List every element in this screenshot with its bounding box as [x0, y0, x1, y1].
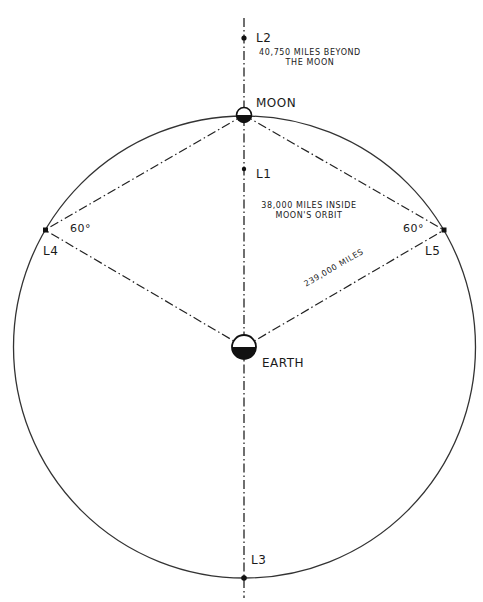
moon-l4-line — [45, 115, 244, 230]
l1-point-icon — [242, 167, 246, 171]
l1-note-line2: MOON'S ORBIT — [254, 211, 364, 221]
moon-icon — [237, 108, 252, 123]
earth-label: EARTH — [262, 356, 304, 370]
l5-angle-label: 60° — [403, 222, 424, 235]
l5-point-icon — [442, 228, 447, 233]
l2-note-line1: 40,750 MILES BEYOND — [250, 48, 370, 58]
moon-label: MOON — [256, 96, 296, 110]
l1-note-line1: 38,000 MILES INSIDE — [254, 201, 364, 211]
l2-note: 40,750 MILES BEYOND THE MOON — [250, 48, 370, 68]
l4-point-icon — [43, 228, 48, 233]
l2-label: L2 — [256, 31, 271, 45]
l4-angle-label: 60° — [70, 222, 91, 235]
l3-label: L3 — [251, 553, 266, 567]
l2-point-icon — [241, 35, 246, 40]
l1-label: L1 — [256, 167, 271, 181]
l5-label: L5 — [425, 244, 440, 258]
earth-icon — [232, 335, 256, 359]
earth-l4-line — [45, 230, 244, 347]
l3-point-icon — [241, 575, 247, 581]
earth-l5-line — [244, 230, 444, 347]
l4-label: L4 — [43, 244, 58, 258]
l1-note: 38,000 MILES INSIDE MOON'S ORBIT — [254, 201, 364, 221]
l2-note-line2: THE MOON — [250, 58, 370, 68]
lagrange-diagram — [0, 0, 483, 602]
